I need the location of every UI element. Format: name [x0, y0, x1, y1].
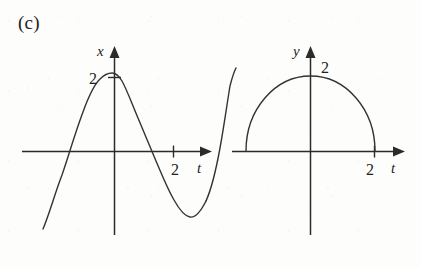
right-plot-y-tick-label: 2 — [321, 59, 329, 76]
left-plot-t-axis — [22, 147, 212, 157]
figure-svg: x t 2 2 y t 2 2 — [0, 0, 421, 267]
left-plot-x-tick-label: 2 — [171, 161, 179, 178]
right-plot-x-axis-label: t — [391, 160, 396, 176]
left-plot-x-axis-label: t — [197, 160, 202, 176]
left-t-axis-arrowhead — [200, 147, 212, 157]
left-plot-y-tick-label: 2 — [89, 70, 97, 87]
right-plot-group: y t 2 2 — [232, 43, 405, 235]
left-plot-x-axis — [110, 46, 120, 235]
left-plot-group: x t 2 2 — [22, 43, 236, 235]
left-plot-curve-rising-branch — [206, 68, 236, 201]
right-plot-t-axis — [232, 147, 405, 157]
left-x-axis-arrowhead — [110, 46, 120, 58]
right-plot-y-axis-label: y — [291, 43, 300, 59]
left-plot-y-axis-label: x — [96, 43, 104, 59]
right-y-axis-arrowhead — [306, 46, 316, 58]
right-plot-y-axis — [306, 46, 316, 235]
right-t-axis-arrowhead — [393, 147, 405, 157]
right-plot-x-tick-label: 2 — [366, 161, 374, 178]
figure-container: (c) x t 2 — [0, 0, 421, 267]
